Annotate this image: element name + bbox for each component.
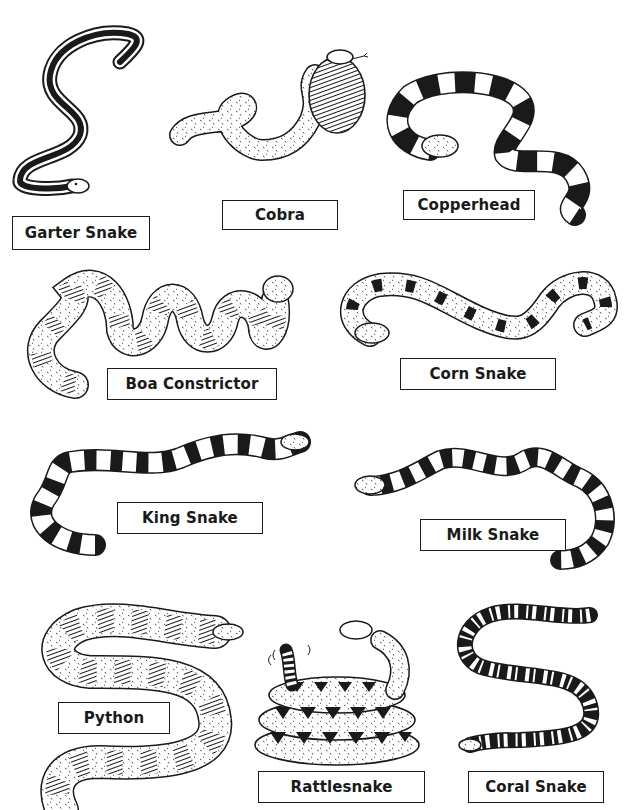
snake-illustrations (0, 0, 625, 810)
coral-snake-head (459, 739, 481, 751)
label-king-snake: King Snake (117, 502, 263, 534)
boa-head (263, 276, 293, 302)
label-corn-snake: Corn Snake (400, 358, 556, 390)
python-head (213, 624, 243, 640)
label-copperhead: Copperhead (403, 190, 535, 220)
label-coral-snake: Coral Snake (468, 771, 604, 803)
garter-head (67, 179, 89, 193)
label-python: Python (58, 702, 170, 734)
milk-snake-head (355, 476, 385, 494)
garter-snake-illustration (20, 33, 137, 193)
label-milk-snake: Milk Snake (420, 519, 566, 551)
label-cobra: Cobra (222, 200, 338, 230)
label-boa-constrictor: Boa Constrictor (107, 368, 277, 400)
label-garter-snake: Garter Snake (12, 216, 150, 250)
coral-snake-illustration (459, 611, 591, 751)
rattlesnake-head (340, 621, 372, 639)
rattlesnake-illustration (255, 621, 419, 765)
cobra-illustration (180, 50, 368, 150)
worksheet-page: Garter Snake Cobra Copperhead Boa Constr… (0, 0, 625, 810)
label-rattlesnake: Rattlesnake (258, 771, 425, 803)
cobra-hood (309, 57, 365, 133)
cobra-head (327, 50, 353, 64)
copperhead-head (422, 135, 458, 157)
king-snake-head (281, 434, 309, 450)
corn-snake-illustration (352, 283, 606, 343)
corn-snake-head (355, 323, 389, 343)
